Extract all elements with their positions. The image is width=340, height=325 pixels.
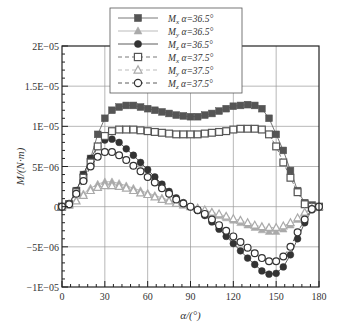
marker-circle <box>258 255 265 262</box>
marker-square <box>209 129 216 136</box>
marker-square <box>116 104 123 111</box>
marker-circle <box>230 233 237 240</box>
marker-circle <box>308 206 315 213</box>
marker-circle <box>80 178 87 185</box>
marker-circle <box>273 258 280 265</box>
marker-square <box>134 14 141 21</box>
marker-square <box>223 105 230 112</box>
marker-triangle <box>244 219 251 226</box>
marker-square <box>237 125 244 132</box>
marker-circle <box>159 185 166 192</box>
marker-circle <box>109 149 116 156</box>
legend: Mx α=36.5°My α=36.5°Mz α=36.5°Mx α=37.5°… <box>110 8 242 93</box>
y-tick-label: 5E−06 <box>32 162 59 173</box>
marker-square <box>123 102 130 109</box>
marker-circle <box>144 166 151 173</box>
marker-square <box>144 128 151 135</box>
marker-square <box>251 125 258 132</box>
marker-square <box>266 131 273 138</box>
marker-square <box>258 105 265 112</box>
marker-square <box>216 108 223 115</box>
marker-square <box>151 107 158 114</box>
y-axis-title: M/(N·m) <box>14 147 27 186</box>
marker-circle <box>280 264 287 271</box>
marker-square <box>166 130 173 137</box>
marker-circle <box>230 240 237 247</box>
marker-square <box>173 131 180 138</box>
marker-circle <box>280 253 287 260</box>
marker-square <box>273 131 280 138</box>
y-tick-label: 1E−05 <box>32 121 59 132</box>
x-tick-label: 150 <box>269 291 284 302</box>
marker-circle <box>180 200 187 207</box>
marker-square <box>151 129 158 136</box>
marker-circle <box>109 136 116 143</box>
x-tick-label: 90 <box>186 291 196 302</box>
x-tick-label: 30 <box>100 291 110 302</box>
marker-circle <box>137 168 144 175</box>
marker-square <box>194 131 201 138</box>
marker-circle <box>101 149 108 156</box>
marker-triangle <box>287 219 294 226</box>
marker-circle <box>294 229 301 236</box>
marker-square <box>194 113 201 120</box>
marker-square <box>266 115 273 122</box>
marker-circle <box>209 216 216 223</box>
marker-square <box>223 128 230 135</box>
marker-circle <box>244 244 251 251</box>
marker-square <box>180 112 187 119</box>
y-tick-label: −1E−05 <box>27 282 59 293</box>
y-tick-label: −5E−06 <box>27 242 59 253</box>
marker-square <box>101 115 108 122</box>
marker-square <box>144 105 151 112</box>
y-tick-label: 2E−05 <box>32 41 59 52</box>
x-tick-label: 120 <box>226 291 241 302</box>
marker-circle <box>258 268 265 275</box>
marker-square <box>187 131 194 138</box>
marker-circle <box>173 196 180 203</box>
marker-square <box>237 102 244 109</box>
marker-circle <box>237 239 244 246</box>
marker-circle <box>201 210 208 217</box>
marker-square <box>134 53 141 60</box>
x-tick-label: 180 <box>312 291 327 302</box>
marker-circle <box>144 174 151 181</box>
marker-square <box>244 125 251 132</box>
marker-square <box>130 126 137 133</box>
marker-circle <box>137 159 144 166</box>
marker-square <box>159 129 166 136</box>
marker-circle <box>216 222 223 229</box>
marker-square <box>166 110 173 117</box>
marker-square <box>287 174 294 181</box>
marker-circle <box>251 261 258 268</box>
marker-square <box>209 110 216 117</box>
marker-circle <box>187 203 194 210</box>
x-tick-label: 60 <box>143 291 153 302</box>
marker-square <box>301 201 308 208</box>
marker-circle <box>266 271 273 278</box>
marker-circle <box>273 270 280 277</box>
marker-circle <box>130 152 137 159</box>
marker-circle <box>134 40 141 47</box>
marker-circle <box>73 190 80 197</box>
marker-square <box>116 126 123 133</box>
marker-triangle <box>230 215 237 222</box>
x-axis-title: α/(°) <box>180 309 201 322</box>
marker-square <box>230 103 237 110</box>
marker-square <box>94 143 101 150</box>
marker-circle <box>151 179 158 186</box>
marker-circle <box>166 190 173 197</box>
marker-square <box>201 112 208 119</box>
marker-square <box>201 130 208 137</box>
marker-circle <box>194 206 201 213</box>
moment-chart: 0306090120150180−1E−05−5E−0605E−061E−051… <box>0 0 340 325</box>
marker-square <box>273 143 280 150</box>
marker-circle <box>94 153 101 160</box>
marker-square <box>187 113 194 120</box>
marker-circle <box>287 251 294 258</box>
marker-circle <box>134 79 141 86</box>
marker-square <box>280 147 287 154</box>
marker-circle <box>87 163 94 170</box>
marker-circle <box>116 152 123 159</box>
marker-circle <box>266 258 273 265</box>
